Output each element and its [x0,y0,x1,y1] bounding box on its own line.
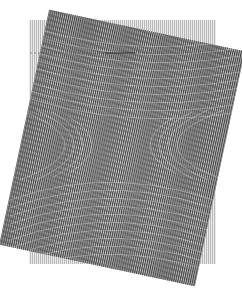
moire-figure [0,0,242,298]
